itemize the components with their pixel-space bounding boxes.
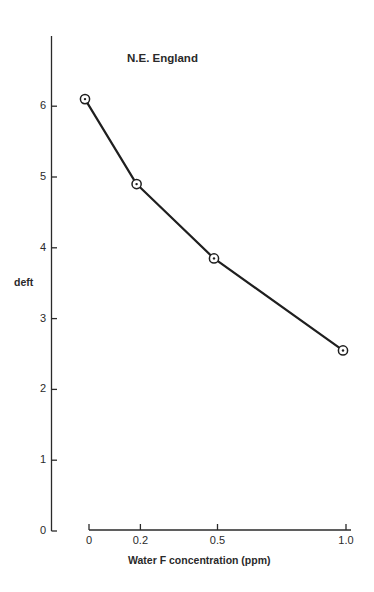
- data-point-marker: [338, 346, 347, 355]
- y-tick-label: 4: [32, 241, 46, 253]
- y-tick-label: 3: [32, 312, 46, 324]
- data-point-marker: [132, 179, 141, 188]
- y-axis-label: deft: [14, 276, 33, 288]
- x-ticks: [89, 524, 346, 530]
- x-tick-label: 0.2: [125, 534, 155, 546]
- y-tick-label: 2: [32, 382, 46, 394]
- x-tick-label: 0: [74, 534, 104, 546]
- y-tick-label: 5: [32, 170, 46, 182]
- y-tick-label: 6: [32, 99, 46, 111]
- line-chart: [0, 0, 374, 592]
- data-markers: [80, 95, 347, 356]
- chart-title: N.E. England: [127, 52, 198, 64]
- series-line: [85, 99, 343, 350]
- y-tick-label: 0: [32, 524, 46, 536]
- data-point-marker: [80, 95, 89, 104]
- x-tick-label: 0.5: [203, 534, 233, 546]
- x-axis-label: Water F concentration (ppm): [128, 554, 271, 566]
- data-point-marker: [209, 254, 218, 263]
- y-tick-label: 1: [32, 453, 46, 465]
- x-tick-label: 1.0: [331, 534, 361, 546]
- y-ticks: [52, 106, 58, 460]
